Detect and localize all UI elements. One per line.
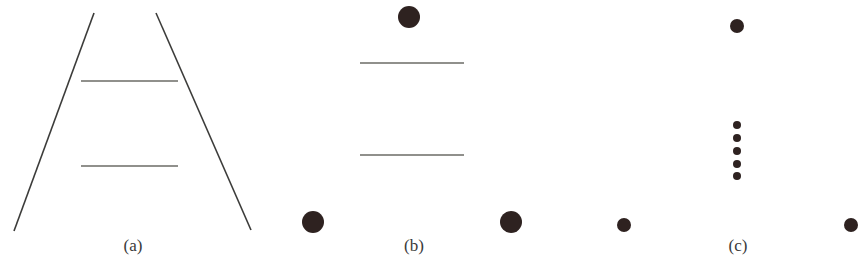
panel-a-caption: (a) <box>124 236 143 256</box>
small-dot <box>733 160 741 168</box>
dot <box>302 211 324 233</box>
dot <box>500 211 522 233</box>
small-dot <box>733 172 741 180</box>
small-dot <box>733 121 741 129</box>
panel-b-caption: (b) <box>404 236 424 256</box>
illusion-figure <box>0 0 865 271</box>
converging-line <box>156 13 251 230</box>
dot <box>730 19 744 33</box>
small-dot <box>733 134 741 142</box>
dot <box>617 218 631 232</box>
dot <box>844 218 858 232</box>
dot <box>398 6 420 28</box>
small-dot <box>733 147 741 155</box>
converging-line <box>14 13 94 231</box>
panel-c-caption: (c) <box>729 236 748 256</box>
